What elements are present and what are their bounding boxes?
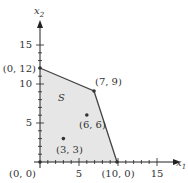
vertex-0-12 [38, 66, 42, 70]
point-3-3 [62, 137, 66, 141]
label-vertex-0-0: (0, 0) [9, 168, 36, 179]
region-label-S: S [58, 92, 65, 103]
x-axis-label: x1 [176, 157, 186, 171]
y-axis-label: x2 [34, 5, 45, 19]
x-tick-label-5: 5 [76, 168, 82, 179]
label-point-6-6: (6, 6) [79, 119, 106, 130]
point-6-6 [85, 113, 89, 117]
y-tick-label-15: 15 [19, 39, 32, 50]
label-vertex-0-12: (0, 12) [3, 63, 36, 74]
label-vertex-7-9: (7, 9) [95, 76, 122, 87]
label-point-3-3: (3, 3) [56, 144, 83, 155]
y-tick-label-10: 10 [19, 78, 32, 89]
feasible-region-diagram: 5 15 5 10 15 x2 x1 (0, 12) (7, 9) (10, 0… [0, 0, 188, 183]
vertex-0-0 [38, 160, 42, 164]
vertex-7-9 [92, 89, 96, 93]
x-tick-label-15: 15 [151, 168, 164, 179]
label-vertex-10-0: (10, 0) [101, 168, 134, 179]
vertex-10-0 [115, 160, 119, 164]
y-axis-arrow-icon [37, 20, 43, 28]
y-tick-label-5: 5 [26, 117, 32, 128]
